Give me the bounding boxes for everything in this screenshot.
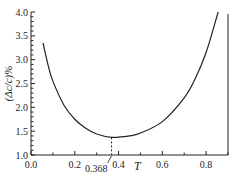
minimum-annotation: 0.368 [85, 163, 108, 174]
x-tick-label: 0.6 [156, 159, 169, 170]
y-axis-label: (Δc/c)% [2, 66, 15, 102]
chart: 0.00.20.40.60.81.01.52.02.53.03.54.0 T (… [0, 0, 232, 186]
x-axis-label: T [134, 159, 142, 173]
axes [31, 12, 228, 155]
data-curve [43, 12, 218, 137]
y-tick-label: 1.0 [16, 150, 29, 161]
y-tick-label: 4.0 [16, 7, 29, 18]
x-tick-label: 0.8 [200, 159, 213, 170]
ticks: 0.00.20.40.60.81.01.52.02.53.03.54.0 [16, 7, 229, 171]
x-tick-label: 0.0 [25, 159, 38, 170]
x-tick-label: 0.4 [112, 159, 125, 170]
x-tick-label: 0.2 [69, 159, 82, 170]
y-tick-label: 2.5 [16, 78, 29, 89]
y-tick-label: 3.5 [16, 30, 29, 41]
y-tick-label: 3.0 [16, 54, 29, 65]
y-tick-label: 1.5 [16, 126, 29, 137]
y-tick-label: 2.0 [16, 102, 29, 113]
